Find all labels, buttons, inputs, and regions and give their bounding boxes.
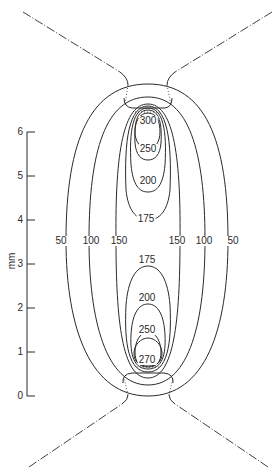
y-tick-4: 4 bbox=[17, 215, 23, 225]
y-tick-6: 6 bbox=[17, 127, 23, 137]
y-tick-0: 0 bbox=[17, 391, 23, 401]
y-tick-1: 1 bbox=[17, 347, 23, 357]
contour-diagram: 0 1 2 3 4 5 6 mm 300 250 200 175 175 200… bbox=[0, 0, 278, 475]
electrode-tips bbox=[123, 85, 173, 395]
y-tick-2: 2 bbox=[17, 303, 23, 313]
label-150-right: 150 bbox=[168, 236, 187, 246]
label-175-upper: 175 bbox=[137, 214, 156, 224]
label-175-lower: 175 bbox=[138, 255, 157, 265]
contour-100 bbox=[89, 97, 205, 385]
label-200-lower: 200 bbox=[138, 293, 157, 303]
label-300-upper: 300 bbox=[139, 116, 158, 126]
label-50-right: 50 bbox=[226, 236, 239, 246]
label-270-lower: 270 bbox=[138, 355, 157, 365]
label-50-left: 50 bbox=[54, 236, 67, 246]
label-100-right: 100 bbox=[195, 236, 214, 246]
y-axis-title: mm bbox=[6, 253, 17, 270]
label-150-left: 150 bbox=[110, 236, 129, 246]
y-tick-3: 3 bbox=[17, 259, 23, 269]
y-tick-5: 5 bbox=[17, 171, 23, 181]
label-250-upper: 250 bbox=[139, 144, 158, 154]
label-200-upper: 200 bbox=[139, 176, 158, 186]
label-100-left: 100 bbox=[82, 236, 101, 246]
label-250-lower: 250 bbox=[138, 325, 157, 335]
y-axis bbox=[27, 132, 35, 396]
